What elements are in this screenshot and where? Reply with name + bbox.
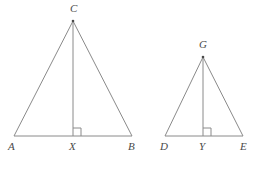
label-E: E	[240, 141, 247, 152]
triangle-ABC-group	[14, 20, 132, 136]
triangle-DEG-group	[165, 56, 243, 136]
right-angle-marker-Y	[203, 128, 211, 136]
triangle-DEG-outline	[165, 57, 243, 136]
right-angle-marker-X	[73, 128, 81, 136]
label-A: A	[8, 141, 15, 152]
label-X: X	[69, 141, 76, 152]
label-Y: Y	[199, 141, 205, 152]
apex-point-G	[202, 56, 205, 59]
geometry-canvas	[0, 0, 270, 171]
geometry-figure: C A X B G D Y E	[0, 0, 270, 171]
label-D: D	[160, 141, 168, 152]
apex-point-C	[72, 20, 75, 23]
label-C: C	[70, 3, 77, 14]
label-B: B	[128, 141, 135, 152]
label-G: G	[199, 39, 207, 50]
